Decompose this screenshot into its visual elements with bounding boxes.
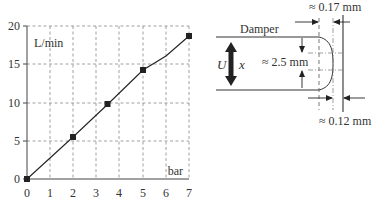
bottom-gap-label: ≈ 0.12 mm	[319, 114, 372, 128]
data-line	[27, 36, 189, 179]
svg-text:6: 6	[163, 186, 169, 200]
svg-text:0: 0	[14, 172, 20, 186]
top-gap-dimension	[295, 19, 350, 25]
x-tick-labels: 0 1 2 3 4 5 6 7	[24, 186, 192, 200]
displacement-label: x	[238, 57, 245, 72]
svg-text:3: 3	[93, 186, 99, 200]
x-axis-label: bar	[168, 164, 183, 178]
svg-text:1: 1	[47, 186, 53, 200]
svg-text:10: 10	[8, 96, 20, 110]
velocity-double-arrow-icon	[225, 42, 237, 86]
flow-pressure-chart: 0 5 10 15 20 0 1 2 3 4 5 6 7 L/min bar	[8, 19, 192, 200]
y-tick-labels: 0 5 10 15 20	[8, 19, 20, 186]
bottom-gap-dimension	[308, 95, 365, 101]
top-gap-label: ≈ 0.17 mm	[309, 0, 362, 14]
width-dimension-label: ≈ 2.5 mm	[262, 55, 309, 69]
damper-label: Damper	[240, 22, 279, 36]
svg-text:7: 7	[186, 186, 192, 200]
y-axis-label: L/min	[34, 36, 63, 50]
svg-text:4: 4	[116, 186, 122, 200]
svg-text:15: 15	[8, 57, 20, 71]
svg-text:2: 2	[70, 186, 76, 200]
damper-diagram: Damper U x ≈ 2.5 mm	[216, 0, 372, 128]
svg-text:0: 0	[24, 186, 30, 200]
figure: 0 5 10 15 20 0 1 2 3 4 5 6 7 L/min bar	[0, 0, 373, 206]
velocity-label: U	[217, 57, 228, 72]
svg-text:20: 20	[8, 19, 20, 33]
svg-text:5: 5	[14, 134, 20, 148]
svg-text:5: 5	[140, 186, 146, 200]
